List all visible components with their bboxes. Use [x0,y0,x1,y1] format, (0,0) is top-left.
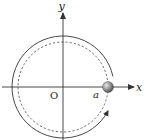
ball [103,82,114,93]
x-axis-label: x [136,81,143,94]
y-axis-label: y [58,0,66,13]
circular-motion-diagram: y x O a [0,0,145,140]
origin-label: O [50,90,58,101]
radius-label: a [93,89,99,100]
